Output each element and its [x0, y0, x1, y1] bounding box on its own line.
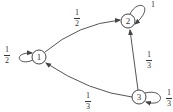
edge-label-3-3: 1 3: [166, 89, 172, 108]
node-2-label: 2: [126, 16, 131, 26]
edge-label-3-1: 1 3: [85, 92, 91, 111]
node-1-label: 1: [37, 52, 42, 62]
edge-label-1-1: 1 2: [4, 46, 10, 65]
edge-label-2-2: 1: [151, 1, 155, 9]
edge-3-to-2: [130, 30, 138, 90]
node-3-label: 3: [137, 92, 142, 102]
node-2: 2: [121, 14, 135, 28]
edge-1-self-loop: [19, 53, 33, 62]
edge-label-1-2: 1 2: [74, 9, 80, 28]
edge-label-3-2: 1 3: [146, 51, 152, 70]
edge-3-self-loop: [145, 92, 161, 103]
node-3: 3: [132, 90, 146, 104]
node-1: 1: [32, 50, 46, 64]
edge-1-to-2: [45, 20, 120, 52]
